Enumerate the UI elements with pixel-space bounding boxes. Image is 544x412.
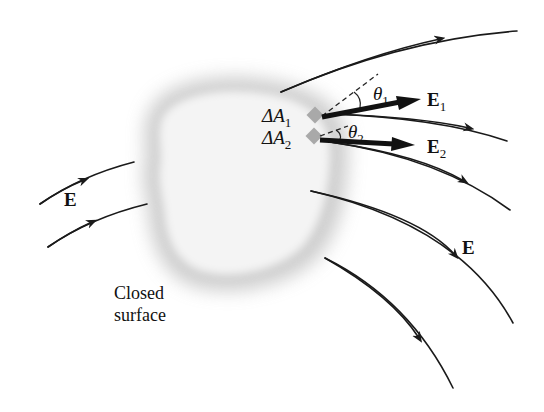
field-line-arrow-icon <box>48 222 92 247</box>
field-line-left-2 <box>48 204 147 247</box>
caption-surface: surface <box>114 305 166 325</box>
vector-E1 <box>322 96 421 117</box>
field-line-5 <box>325 258 453 388</box>
angle-arc-1 <box>354 92 360 108</box>
gauss-law-diagram: ΔA1 ΔA2 θ1 θ2 E1 E2 E E Closed surface <box>0 0 544 412</box>
vector-label-E1: E1 <box>427 89 446 114</box>
field-line-arrow-icon <box>40 180 84 204</box>
vector-label-E2: E2 <box>427 136 446 161</box>
field-line-left-1 <box>40 162 134 204</box>
field-line-top <box>281 31 517 92</box>
field-label-right: E <box>462 237 475 258</box>
field-line-3 <box>330 142 510 210</box>
field-label-left: E <box>64 189 77 210</box>
field-line-arrow-icon <box>325 258 419 338</box>
caption-closed: Closed <box>114 283 164 303</box>
